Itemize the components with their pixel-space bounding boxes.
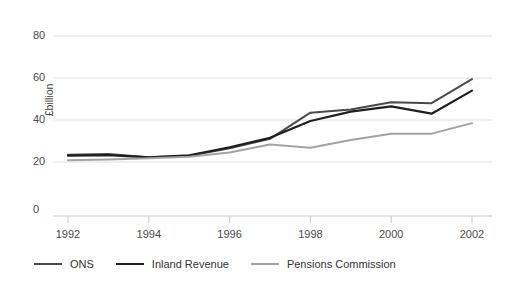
legend-item[interactable]: Pensions Commission (251, 258, 396, 270)
y-axis-tick-label: 80 (33, 29, 59, 41)
legend-line-swatch (116, 263, 144, 265)
gridlines (53, 36, 492, 162)
legend-item[interactable]: ONS (34, 258, 94, 270)
chart-legend: ONSInland RevenuePensions Commission (34, 258, 418, 270)
y-axis-tick-label: 0 (33, 203, 59, 215)
y-axis-tick-label: 20 (33, 155, 59, 167)
legend-item[interactable]: Inland Revenue (116, 258, 229, 270)
y-axis-tick-label: 40 (33, 113, 59, 125)
chart-plot-area (0, 0, 509, 290)
line-chart: £billion 020406080 199219941996199820002… (0, 0, 509, 290)
chart-axes (53, 216, 492, 223)
legend-line-swatch (34, 263, 62, 265)
x-axis-tick-label: 1998 (287, 228, 333, 240)
x-axis-tick-label: 2000 (368, 228, 414, 240)
legend-label: Pensions Commission (287, 258, 396, 270)
legend-label: Inland Revenue (152, 258, 229, 270)
y-axis-tick-label: 60 (33, 71, 59, 83)
x-axis-tick-label: 2002 (449, 228, 495, 240)
legend-line-swatch (251, 263, 279, 265)
x-axis-tick-label: 1996 (207, 228, 253, 240)
x-axis-tick-label: 1992 (45, 228, 91, 240)
x-axis-tick-label: 1994 (126, 228, 172, 240)
legend-label: ONS (70, 258, 94, 270)
series-line-inland-revenue (68, 91, 472, 158)
